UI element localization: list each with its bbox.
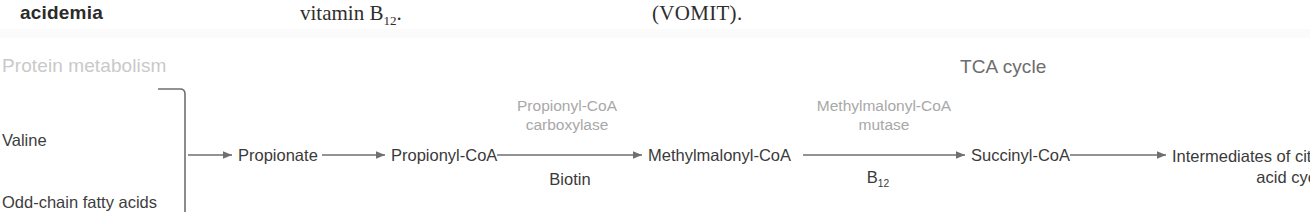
node-citric-acid-cycle-intermediates: Intermediates of citric acid cycle [1172,146,1310,188]
node-intermediates-line2: acid cycle [1172,167,1310,188]
tca-cycle-label: TCA cycle [960,56,1046,78]
substrate-list: Valine Odd-chain fatty acids Methionine … [2,89,157,212]
vitamin-b12-prefix: vitamin B [300,1,383,25]
enzyme-propionyl-coa-carboxylase: Propionyl-CoA carboxylase [485,96,649,134]
cofactor-biotin: Biotin [505,170,635,189]
node-propionate: Propionate [238,146,318,165]
node-succinyl-coa: Succinyl-CoA [971,146,1070,165]
body-text-fragment-vomit: (VOMIT). [652,1,742,26]
cofactor-b12: B12 [818,168,938,189]
list-item: Valine [2,130,157,151]
enzyme-carboxylase-line1: Propionyl-CoA [485,96,649,115]
vitamin-b12-suffix: . [396,1,401,25]
substrate-grouping-bracket [150,84,196,212]
node-methylmalonyl-coa: Methylmalonyl-CoA [648,146,791,165]
figure-heading-protein-metabolism: Protein metabolism [2,55,166,77]
enzyme-mutase-line2: mutase [795,115,973,134]
cofactor-b12-subscript: 12 [878,178,889,189]
body-text-fragment-vitamin-b12: vitamin B12. [300,1,402,29]
vitamin-b12-subscript: 12 [383,13,396,28]
list-item: Odd-chain fatty acids [2,192,157,212]
node-intermediates-line1: Intermediates of citric [1172,146,1310,167]
enzyme-methylmalonyl-coa-mutase: Methylmalonyl-CoA mutase [795,96,973,134]
clipped-text-row [0,29,1310,38]
cofactor-b12-symbol: B [867,168,878,186]
enzyme-mutase-line1: Methylmalonyl-CoA [795,96,973,115]
enzyme-carboxylase-line2: carboxylase [485,115,649,134]
node-propionyl-coa: Propionyl-CoA [391,146,497,165]
body-text-fragment-acidemia: acidemia [20,2,103,24]
